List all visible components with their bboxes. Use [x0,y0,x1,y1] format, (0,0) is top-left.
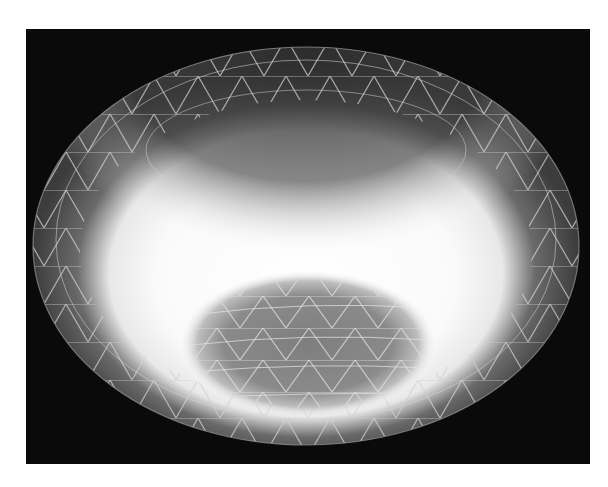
bowl-render [0,0,608,487]
